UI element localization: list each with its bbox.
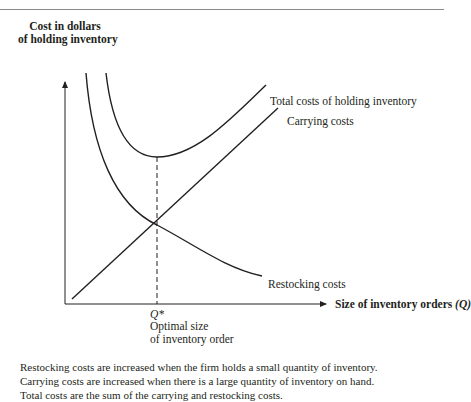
total-cost-curve xyxy=(106,73,266,157)
carrying-cost-label: Carrying costs xyxy=(287,115,354,128)
restocking-cost-label: Restocking costs xyxy=(268,278,346,291)
caption: Restocking costs are increased when the … xyxy=(20,360,378,402)
optimal-size-label: Optimal size of inventory order xyxy=(150,320,234,346)
restocking-curve xyxy=(86,73,262,276)
total-cost-label: Total costs of holding inventory xyxy=(270,95,417,108)
x-axis-label: Size of inventory orders (Q) xyxy=(335,298,471,311)
carrying-line xyxy=(72,108,278,299)
y-axis-label: Cost in dollars of holding inventory xyxy=(18,20,112,46)
